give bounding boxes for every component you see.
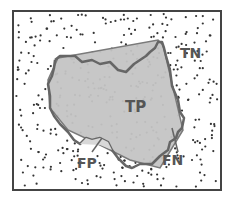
- dot: [194, 141, 196, 143]
- dot: [79, 33, 81, 35]
- dot: [62, 152, 64, 154]
- dot: [196, 140, 198, 142]
- dot: [136, 175, 138, 177]
- dot: [193, 42, 195, 44]
- dot: [212, 19, 214, 21]
- dot: [148, 27, 150, 29]
- dot: [104, 18, 106, 20]
- dot: [170, 18, 172, 20]
- diagram-canvas: TP TN FP FN: [0, 0, 234, 198]
- dot: [194, 77, 196, 79]
- label-fp: FP: [77, 155, 97, 171]
- dot: [120, 19, 122, 21]
- dot: [28, 69, 30, 71]
- dot: [196, 154, 198, 156]
- dot: [209, 78, 211, 80]
- dot: [199, 142, 201, 144]
- dot: [134, 29, 136, 31]
- dot: [39, 39, 41, 41]
- dot: [54, 128, 56, 130]
- dot: [199, 172, 201, 174]
- dot: [86, 179, 88, 181]
- dot: [202, 67, 204, 69]
- dot: [20, 52, 22, 54]
- dot: [123, 14, 125, 16]
- dot: [57, 149, 59, 151]
- dot: [15, 95, 17, 97]
- dot: [50, 166, 52, 168]
- dot: [202, 89, 204, 91]
- dot: [55, 134, 57, 136]
- dot: [204, 145, 206, 147]
- dot: [36, 62, 38, 64]
- dot: [128, 28, 130, 30]
- dot: [33, 55, 35, 57]
- dot: [209, 101, 211, 103]
- dot: [28, 52, 30, 54]
- dot: [85, 14, 87, 16]
- dot: [81, 182, 83, 184]
- dot: [207, 82, 209, 84]
- dot: [50, 20, 52, 22]
- dot: [213, 125, 215, 127]
- dot: [110, 21, 112, 23]
- dot: [44, 156, 46, 158]
- dot: [195, 186, 197, 188]
- dot: [211, 94, 213, 96]
- dot: [39, 107, 41, 109]
- dot: [165, 30, 167, 32]
- dot: [44, 107, 46, 109]
- dot: [209, 34, 211, 36]
- dot: [42, 166, 44, 168]
- dot: [192, 139, 194, 141]
- dot: [176, 84, 178, 86]
- dot: [34, 44, 36, 46]
- dot: [20, 126, 22, 128]
- dot: [59, 162, 61, 164]
- dot: [153, 36, 155, 38]
- dot: [203, 174, 205, 176]
- dot: [46, 28, 48, 30]
- dot: [17, 68, 19, 70]
- dot: [75, 178, 77, 180]
- label-tn: TN: [180, 45, 201, 61]
- dot: [31, 36, 33, 38]
- dot: [198, 93, 200, 95]
- dot: [18, 36, 20, 38]
- dot: [50, 133, 52, 135]
- dot: [209, 97, 211, 99]
- dot: [36, 183, 38, 185]
- dot: [34, 166, 36, 168]
- dot: [196, 74, 198, 76]
- dot: [141, 170, 143, 172]
- dot: [200, 180, 202, 182]
- dot: [165, 17, 167, 19]
- dot: [123, 34, 125, 36]
- dot: [132, 20, 134, 22]
- dot: [120, 175, 122, 177]
- dot: [156, 32, 158, 34]
- dot: [17, 66, 19, 68]
- dot: [204, 138, 206, 140]
- dot: [44, 88, 46, 90]
- dot: [26, 135, 28, 137]
- dot: [19, 109, 21, 111]
- dot: [201, 54, 203, 56]
- dot: [50, 129, 52, 131]
- dot: [60, 18, 62, 20]
- dot: [99, 162, 101, 164]
- dot: [174, 147, 176, 149]
- dot: [150, 14, 152, 16]
- dot: [199, 67, 201, 69]
- dot: [31, 21, 33, 23]
- dot: [193, 126, 195, 128]
- dot: [185, 16, 187, 18]
- dot: [40, 34, 42, 36]
- dot: [114, 178, 116, 180]
- dot: [142, 183, 144, 185]
- dot: [60, 170, 62, 172]
- dot: [53, 20, 55, 22]
- dot: [72, 169, 74, 171]
- dot: [124, 160, 126, 162]
- dot: [213, 123, 215, 125]
